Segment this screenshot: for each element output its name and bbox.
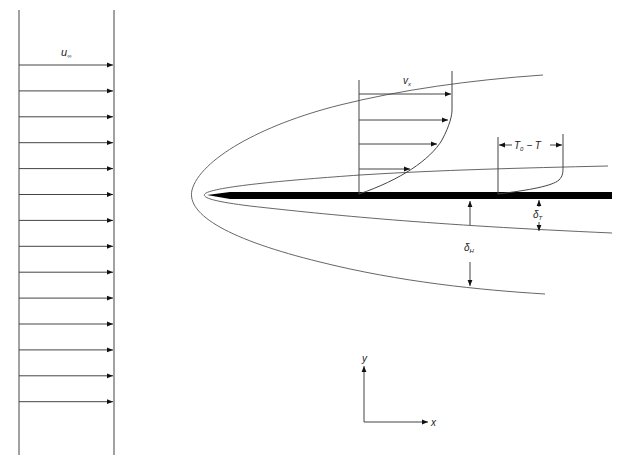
- velocity-profile-curve: [359, 110, 452, 194]
- hydrodynamic-boundary-layer-edge: [191, 75, 545, 294]
- temperature-profile-curve: [498, 167, 563, 194]
- velocity-profile-label: vx: [403, 75, 412, 87]
- velocity-profile: vx: [359, 71, 452, 194]
- temperature-profile: T0 − T: [498, 134, 563, 194]
- delta-h-label: δH: [464, 242, 475, 254]
- freestream-velocity-label: u∞: [61, 46, 71, 59]
- hydrodynamic-thickness-dimension: δH: [464, 201, 475, 286]
- delta-t-label: δT: [533, 209, 544, 221]
- coordinate-axes: y x: [361, 353, 437, 428]
- x-axis-label: x: [430, 417, 437, 428]
- thermal-boundary-layer-edge: [204, 166, 612, 233]
- freestream-arrows: [19, 65, 113, 402]
- freestream-region: u∞: [19, 10, 114, 455]
- temperature-difference-label: T0 − T: [514, 140, 542, 152]
- thermal-thickness-dimension: δT: [533, 200, 544, 231]
- boundary-layer-diagram: u∞ vx T0 − T δH: [0, 0, 627, 466]
- flat-plate: [207, 192, 612, 199]
- y-axis-label: y: [361, 353, 368, 364]
